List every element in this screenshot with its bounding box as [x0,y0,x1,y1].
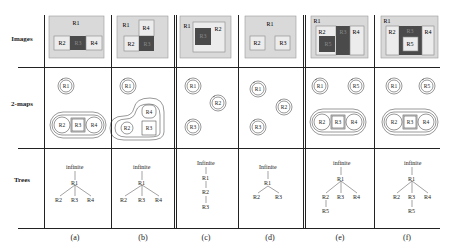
tree-b-r4: R4 [155,197,162,203]
trees-row [0,0,459,247]
tree-f-root: infinite [404,160,421,166]
tree-a-r1: R1 [71,180,78,186]
tree-c-r3: R3 [202,204,209,210]
tree-c-r1: R1 [202,175,209,181]
tree-f-r3: R3 [408,194,415,200]
tree-b-root: infinite [133,164,150,170]
tree-b-r1: R1 [138,180,145,186]
tree-e-root: infinite [333,160,350,166]
tree-f-r4: R4 [424,194,431,200]
tree-a-root: infinite [66,164,83,170]
tree-a-r4: R4 [87,197,94,203]
tree-e [326,167,357,207]
tree-c-r2: R2 [202,189,209,195]
tree-b-r3: R3 [138,197,145,203]
tree-a-r2: R2 [55,197,62,203]
tree-e-r2: R2 [322,194,329,200]
tree-d-r1: R1 [264,180,271,186]
caption-e: (e) [320,233,360,242]
tree-e-r1: R1 [337,176,344,182]
tree-a-r3: R3 [71,197,78,203]
tree-c-root: Infinite [197,160,215,166]
tree-b-r2: R2 [120,197,127,203]
caption-b: (b) [123,233,163,242]
tree-f-r2: R2 [393,194,400,200]
caption-c: (c) [186,233,226,242]
tree-d-r2: R2 [253,194,260,200]
tree-f-r1: R1 [408,176,415,182]
tree-d-r3: R3 [275,194,282,200]
tree-e-r4: R4 [353,194,360,200]
caption-a: (a) [55,233,95,242]
caption-d: (d) [250,233,290,242]
tree-f [397,167,428,207]
tree-e-r5: R5 [322,208,329,214]
tree-d-root: Infinite [259,164,277,170]
tree-e-r3: R3 [337,194,344,200]
caption-f: (f) [387,233,427,242]
tree-f-r5: R5 [408,208,415,214]
